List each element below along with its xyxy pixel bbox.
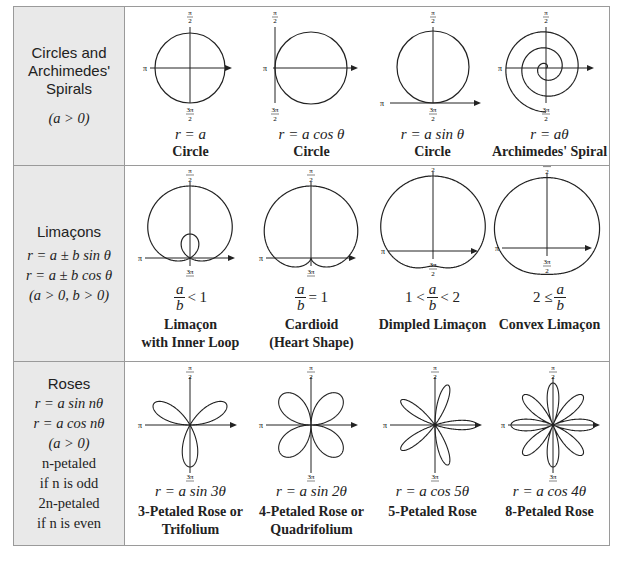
example-dimpled-limacon: ππ23π2 1 < ab < 2 Dimpled Limaçon (372, 166, 493, 361)
svg-text:2: 2 (431, 115, 435, 123)
example-circle-r-a: π 2 π 3π 2 r = a Circle (130, 7, 251, 165)
example-rose-5: ππ23π2 r = a cos 5θ 5-Petaled Rose (372, 362, 493, 545)
svg-text:π: π (188, 9, 192, 17)
example-cardioid: ππ23π2 ab = 1 Cardioid (Heart Shape) (251, 166, 372, 361)
svg-text:π: π (431, 9, 435, 17)
svg-text:2: 2 (433, 373, 437, 381)
equation: r = a sin 2θ (251, 482, 372, 500)
equation: r = a cos 4θ (489, 482, 610, 500)
graph-name: Circle (372, 143, 493, 161)
svg-text:π: π (309, 364, 313, 372)
limacon-inner-loop-icon: ππ23π2 (130, 166, 251, 278)
graph-name: Limaçon (130, 316, 251, 334)
ratio-fraction: ab (427, 282, 439, 313)
svg-text:3π: 3π (271, 106, 279, 114)
svg-text:π: π (498, 64, 502, 73)
svg-text:2: 2 (188, 277, 192, 278)
svg-text:3π: 3π (186, 268, 194, 276)
dimpled-limacon-icon: ππ23π2 (372, 166, 493, 278)
graph-name: Cardioid (251, 316, 372, 334)
category-condition: n-petaled (42, 453, 96, 473)
svg-text:2: 2 (309, 277, 313, 278)
svg-text:2: 2 (188, 115, 192, 123)
ratio-condition: 1 < ab < 2 (372, 278, 493, 316)
equation: r = a cos θ (251, 125, 372, 143)
svg-text:3π: 3π (549, 473, 557, 481)
svg-text:π: π (259, 254, 263, 263)
graph-name: Convex Limaçon (489, 316, 610, 334)
svg-text:π: π (138, 421, 142, 430)
svg-text:π: π (544, 9, 548, 17)
svg-text:3π: 3π (431, 473, 439, 481)
equation: r = a (130, 125, 251, 143)
equation: r = a sin θ (372, 125, 493, 143)
svg-text:2: 2 (188, 176, 192, 184)
category-condition: r = a ± b cos θ (26, 265, 112, 285)
svg-text:3π: 3π (186, 473, 194, 481)
archimedes-spiral-icon: π 2 π 3π 2 (489, 7, 610, 125)
svg-text:π: π (138, 254, 142, 263)
category-cell-limacons: Limaçons r = a ± b sin θ r = a ± b cos θ… (14, 166, 125, 361)
svg-text:π: π (380, 99, 384, 108)
ratio-right: < 2 (440, 289, 460, 306)
graph-name: Circle (251, 143, 372, 161)
example-rose-8: ππ23π2 r = a cos 4θ 8-Petaled Rose (489, 362, 610, 545)
ratio-condition: 2 ≤ ab (489, 278, 610, 316)
example-limacon-inner-loop: ππ23π2 ab < 1 Limaçon with Inner Loop (130, 166, 251, 361)
category-title: Roses (48, 375, 91, 393)
svg-text:3π: 3π (542, 106, 550, 114)
category-condition: (a > 0) (48, 108, 89, 128)
graph-name: Trifolium (130, 521, 251, 539)
ratio-condition: ab = 1 (251, 278, 372, 316)
circle-sin-icon: π 2 π 3π 2 (372, 7, 493, 125)
graph-name: (Heart Shape) (251, 334, 372, 352)
category-condition: if n is odd (40, 473, 98, 493)
category-condition: r = a ± b sin θ (27, 245, 111, 265)
graph-name: Quadrifolium (251, 521, 372, 539)
ratio-right: = 1 (308, 289, 328, 306)
ratio-fraction: ab (554, 282, 566, 313)
svg-text:π: π (495, 244, 499, 253)
rose-5-petal-icon: ππ23π2 (372, 362, 493, 482)
svg-text:2: 2 (188, 373, 192, 381)
category-condition: (a > 0, b > 0) (29, 285, 109, 305)
svg-text:2: 2 (431, 17, 435, 25)
ratio-fraction: ab (174, 282, 186, 313)
svg-text:2: 2 (545, 168, 549, 176)
svg-text:π: π (273, 9, 277, 17)
row-circles-spirals: Circles and Archimedes' Spirals (a > 0) … (14, 7, 609, 166)
graph-name: 3-Petaled Rose or (130, 503, 251, 521)
equation: r = a cos 5θ (372, 482, 493, 500)
circle-centered-icon: π 2 π 3π 2 (130, 7, 251, 125)
svg-text:π: π (501, 421, 505, 430)
svg-text:2: 2 (431, 270, 435, 278)
graph-name: Circle (130, 143, 251, 161)
svg-text:2: 2 (544, 17, 548, 25)
example-circle-cos: π 2 π 3π 2 r = a cos θ Circle (251, 7, 372, 165)
category-cell-circles: Circles and Archimedes' Spirals (a > 0) (14, 7, 125, 165)
svg-text:3π: 3π (307, 473, 315, 481)
row-roses: Roses r = a sin nθ r = a cos nθ (a > 0) … (14, 362, 609, 545)
graph-name: 5-Petaled Rose (372, 503, 493, 521)
svg-text:π: π (143, 64, 147, 73)
example-rose-3: ππ23π2 r = a sin 3θ 3-Petaled Rose or Tr… (130, 362, 251, 545)
graph-name: 8-Petaled Rose (489, 503, 610, 521)
svg-text:π: π (263, 64, 267, 73)
svg-text:π: π (309, 167, 313, 175)
svg-text:2: 2 (188, 17, 192, 25)
svg-text:2: 2 (309, 176, 313, 184)
category-title: Archimedes' (28, 62, 110, 80)
svg-text:2: 2 (544, 115, 548, 123)
graph-name: with Inner Loop (130, 334, 251, 352)
ratio-condition: ab < 1 (130, 278, 251, 316)
svg-text:2: 2 (273, 17, 277, 25)
svg-text:π: π (433, 364, 437, 372)
example-rose-4: ππ23π2 r = a sin 2θ 4-Petaled Rose or Qu… (251, 362, 372, 545)
graph-name: Archimedes' Spiral (489, 143, 610, 161)
ratio-right: < 1 (187, 289, 207, 306)
svg-text:π: π (188, 364, 192, 372)
category-condition: r = a sin nθ (35, 393, 103, 413)
category-cell-roses: Roses r = a sin nθ r = a cos nθ (a > 0) … (14, 362, 125, 545)
rose-8-petal-icon: ππ23π2 (489, 362, 610, 482)
svg-text:2: 2 (551, 373, 555, 381)
